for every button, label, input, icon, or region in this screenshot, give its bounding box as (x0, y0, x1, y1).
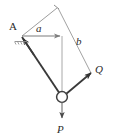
label-side-a: a (36, 23, 42, 34)
label-point-A: A (9, 21, 17, 32)
label-force-P: P (57, 124, 64, 135)
vector-Q-arrow (66, 73, 91, 94)
construction-line-apex-to-Q (58, 8, 91, 73)
reaction-arrow-at-A (23, 39, 34, 56)
pin-joint-circle (57, 92, 68, 103)
label-side-b: b (76, 36, 82, 47)
label-force-Q: Q (95, 64, 103, 75)
parallelogram-construction-lines (22, 5, 91, 92)
force-parallelogram-figure: A a b Q P (0, 0, 113, 140)
